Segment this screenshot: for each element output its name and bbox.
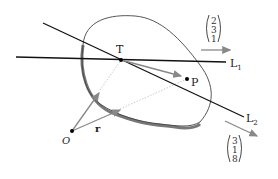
direction-vector-L1: 2 3 1 [207,15,221,44]
dotted-line-OT [100,60,121,90]
point-P [185,77,189,81]
point-O [70,129,74,133]
label-T: T [116,43,124,56]
label-L2: L2 [246,112,258,127]
svg-text:8: 8 [232,154,238,164]
svg-text:1: 1 [211,34,217,44]
direction-vector-L2: 3 1 8 [228,135,242,164]
label-P: P [191,76,199,89]
surface-shadow-edge [82,45,200,128]
label-O: O [62,135,70,146]
label-r: r [95,123,101,134]
dotted-line-OP [120,79,187,109]
label-L1: L1 [230,57,242,72]
tangent-plane-diagram: T P O r L1 L2 2 3 1 3 1 8 [0,0,278,179]
point-T [119,58,123,62]
